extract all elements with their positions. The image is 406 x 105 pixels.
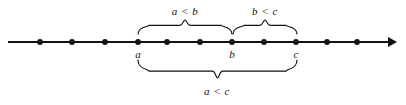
number-line-figure: a < bb < ca < c abc <box>0 0 406 105</box>
axis-label-c: c <box>294 48 299 60</box>
brace-a-lt-b-label: a < b <box>172 5 198 17</box>
number-line-dot-5 <box>164 39 170 45</box>
brace-b-lt-c <box>233 20 297 34</box>
brace-a-lt-c-label: a < c <box>204 85 230 97</box>
brace-a-lt-c <box>138 60 297 78</box>
braces-group <box>138 20 297 78</box>
number-line-dot-a <box>135 39 141 45</box>
number-line-dot-c <box>293 39 299 45</box>
number-line-dot-2 <box>69 39 75 45</box>
number-line-dot-3 <box>102 39 108 45</box>
number-line-dot-1 <box>37 39 43 45</box>
brace-a-lt-b <box>138 20 232 34</box>
axis-label-b: b <box>229 48 235 60</box>
number-line-dot-10 <box>324 39 330 45</box>
number-line-canvas <box>0 0 406 105</box>
number-line-dot-6 <box>197 39 203 45</box>
number-line-dot-b <box>229 39 235 45</box>
axis-label-a: a <box>135 48 141 60</box>
axis-arrowhead-icon <box>388 37 397 47</box>
number-line-dot-11 <box>354 39 360 45</box>
number-line-dot-8 <box>261 39 267 45</box>
brace-b-lt-c-label: b < c <box>252 5 278 17</box>
